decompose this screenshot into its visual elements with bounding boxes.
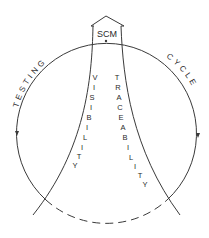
scm-house-roof — [91, 16, 124, 26]
svg-text:I: I — [127, 143, 129, 152]
svg-text:S: S — [89, 93, 94, 102]
svg-text:T: T — [138, 171, 143, 180]
svg-text:A: A — [116, 93, 121, 102]
svg-text:Y: Y — [72, 161, 77, 170]
svg-text:L: L — [83, 133, 87, 142]
svg-text:L: L — [129, 153, 133, 162]
svg-text:B: B — [122, 133, 127, 142]
scm-testing-cycle-diagram: SCM TESTING CYCLE V I S I B I L I T Y T … — [0, 0, 209, 238]
svg-text:B: B — [86, 113, 91, 122]
left-direction-arrow-icon — [15, 131, 19, 136]
svg-text:I: I — [134, 162, 136, 171]
svg-text:I: I — [90, 103, 92, 112]
traceability-label: T R A C E A B I L I T Y — [115, 73, 148, 189]
visibility-label: V I S I B I L I T Y — [72, 73, 97, 170]
scm-label: SCM — [97, 29, 117, 39]
svg-text:Y: Y — [142, 180, 147, 189]
svg-text:I: I — [81, 143, 83, 152]
svg-text:E: E — [118, 113, 123, 122]
svg-text:R: R — [115, 83, 121, 92]
svg-text:A: A — [120, 123, 125, 132]
svg-text:V: V — [92, 73, 97, 82]
svg-text:T: T — [115, 73, 120, 82]
testing-label: TESTING — [11, 56, 48, 108]
svg-text:C: C — [117, 103, 123, 112]
svg-text:I: I — [93, 83, 95, 92]
svg-text:T: T — [77, 152, 82, 161]
dashed-bottom-arc — [46, 200, 167, 223]
svg-text:I: I — [86, 123, 88, 132]
top-dot — [105, 40, 107, 42]
